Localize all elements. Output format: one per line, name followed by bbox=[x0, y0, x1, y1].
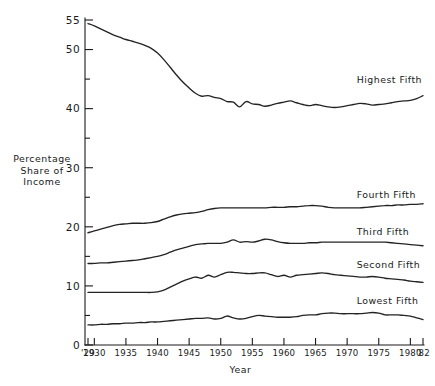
y-tick-label: 20 bbox=[66, 221, 80, 233]
x-tick-label: 1955 bbox=[241, 348, 264, 358]
series-label-lowest-fifth: Lowest Fifth bbox=[357, 295, 419, 306]
series-line-highest-fifth bbox=[88, 24, 423, 108]
x-tick-label: 1975 bbox=[367, 348, 390, 358]
y-tick-label: 40 bbox=[66, 102, 80, 114]
y-axis-title-line: Income bbox=[23, 176, 61, 187]
y-axis-title-line: Share of bbox=[20, 165, 63, 176]
x-axis-title: Year bbox=[229, 364, 252, 375]
x-tick-label: '82 bbox=[416, 348, 430, 358]
y-axis-title-line: Percentage bbox=[13, 153, 71, 164]
series-line-lowest-fifth bbox=[88, 313, 423, 325]
income-share-line-chart: 0102030405055 '2919301935194019451950195… bbox=[0, 0, 435, 386]
series-label-highest-fifth: Highest Fifth bbox=[357, 74, 422, 85]
x-tick-label: 1950 bbox=[209, 348, 232, 358]
series-label-third-fifth: Third Fifth bbox=[356, 226, 409, 237]
axis-titles: YearPercentageShare ofIncome bbox=[13, 153, 251, 375]
x-tick-label: 1935 bbox=[115, 348, 138, 358]
series-line-second-fifth bbox=[88, 272, 423, 292]
series-lines bbox=[88, 24, 423, 325]
x-tick-label: 1930 bbox=[83, 348, 106, 358]
chart-svg: 0102030405055 '2919301935194019451950195… bbox=[0, 0, 435, 386]
x-axis-tick-labels: '291930193519401945195019551960196519701… bbox=[81, 348, 430, 358]
y-tick-label: 0 bbox=[73, 339, 80, 351]
series-labels: Highest FifthFourth FifthThird FifthSeco… bbox=[356, 74, 422, 305]
y-tick-label: 10 bbox=[66, 280, 80, 292]
y-axis-tick-labels: 0102030405055 bbox=[66, 14, 80, 351]
x-tick-label: 1945 bbox=[178, 348, 201, 358]
series-label-fourth-fifth: Fourth Fifth bbox=[357, 189, 416, 200]
x-tick-label: 1960 bbox=[273, 348, 296, 358]
y-tick-label: 55 bbox=[66, 14, 80, 26]
x-tick-label: 1965 bbox=[304, 348, 327, 358]
x-axis-ticks bbox=[88, 338, 423, 345]
y-tick-label: 50 bbox=[66, 43, 80, 55]
y-axis-ticks bbox=[85, 20, 93, 345]
x-tick-label: 1970 bbox=[336, 348, 359, 358]
x-tick-label: 1940 bbox=[146, 348, 169, 358]
series-label-second-fifth: Second Fifth bbox=[357, 259, 421, 270]
